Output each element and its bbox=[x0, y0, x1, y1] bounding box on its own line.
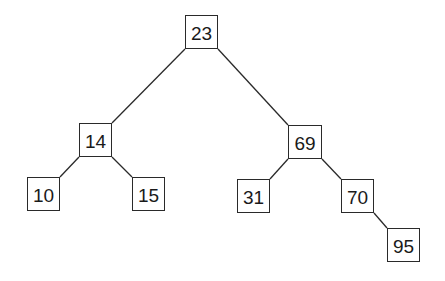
tree-node: 70 bbox=[341, 179, 374, 213]
tree-node-root: 23 bbox=[185, 15, 218, 49]
tree-edges bbox=[0, 0, 445, 281]
edge-23-69 bbox=[218, 49, 288, 125]
tree-node-leaf: 15 bbox=[132, 177, 165, 211]
tree-node-leaf: 10 bbox=[27, 177, 60, 211]
edge-69-70 bbox=[322, 159, 341, 179]
tree-node-leaf: 31 bbox=[237, 179, 270, 213]
edge-69-31 bbox=[270, 159, 288, 179]
edge-70-95 bbox=[374, 213, 387, 228]
edge-23-14 bbox=[112, 49, 185, 123]
edge-14-10 bbox=[60, 157, 79, 177]
tree-node: 14 bbox=[79, 123, 112, 157]
edge-14-15 bbox=[112, 157, 132, 177]
tree-node-leaf: 95 bbox=[387, 228, 420, 262]
tree-node: 69 bbox=[288, 125, 322, 159]
